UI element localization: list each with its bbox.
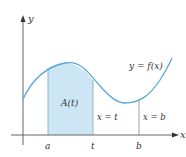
x-axis-arrow-icon <box>172 133 179 138</box>
tick-label-t: t <box>91 141 95 151</box>
tick-label-b: b <box>136 141 142 151</box>
line-label-t: x = t <box>97 112 118 122</box>
line-label-b: x = b <box>143 112 166 122</box>
area-function-diagram: y x y = f(x) A(t) x = t x = b a t b <box>0 0 186 157</box>
y-axis-arrow-icon <box>21 15 26 22</box>
area-label: A(t) <box>60 98 79 108</box>
tick-label-a: a <box>45 141 50 151</box>
x-axis-label: x <box>180 129 186 140</box>
y-axis-label: y <box>27 13 34 24</box>
curve-label: y = f(x) <box>128 61 163 71</box>
